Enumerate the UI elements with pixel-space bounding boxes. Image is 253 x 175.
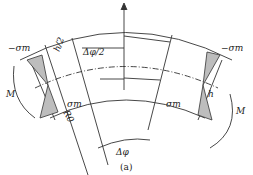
label-neg-sigma-left: −σm [8, 44, 30, 53]
label-angle: Δφ [116, 148, 129, 157]
label-sigma-right: σm [166, 100, 181, 109]
label-half-angle: Δφ/2 [83, 48, 105, 57]
label-h: h [208, 90, 214, 99]
label-moment-right: M [236, 107, 245, 116]
neutral-arc [35, 67, 218, 89]
curved-beam-diagram: −σm −σm σm σm Δφ/2 Δφ h/2 h R0 M M (a) [0, 0, 253, 175]
label-neg-sigma-right: −σm [221, 44, 243, 53]
figure-caption: (a) [120, 162, 132, 172]
label-moment-left: M [6, 90, 15, 99]
